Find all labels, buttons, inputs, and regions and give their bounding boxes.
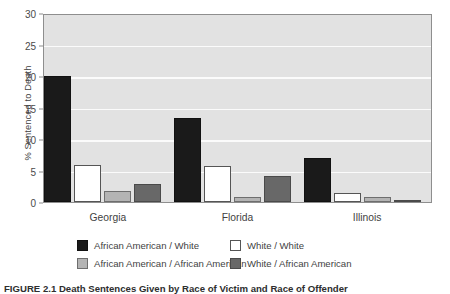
y-axis-tick-label: 20: [25, 72, 36, 83]
figure-caption: FIGURE 2.1 Death Sentences Given by Race…: [4, 283, 446, 294]
gridline: [44, 77, 431, 78]
legend-swatch-icon: [230, 240, 241, 251]
legend-swatch-icon: [230, 258, 241, 269]
gridline: [44, 46, 431, 47]
y-axis-tick-label: 0: [30, 198, 36, 209]
figure-chart: % Sentenced to Death 051015202530 Georgi…: [0, 0, 450, 294]
bar: [104, 191, 131, 202]
gridlines: [44, 15, 431, 202]
y-axis-tick-label: 15: [25, 103, 36, 114]
legend-swatch-icon: [77, 258, 88, 269]
x-axis-tick-label: Florida: [222, 212, 253, 223]
bar: [134, 184, 161, 202]
bar: [364, 197, 391, 202]
legend-item: African American / White: [77, 240, 199, 251]
gridline: [44, 109, 431, 110]
y-axis-ticks: 051015202530: [0, 14, 43, 203]
legend-swatch-icon: [77, 240, 88, 251]
bar: [334, 193, 361, 202]
legend-label: African American / African American: [94, 258, 247, 269]
x-axis-tick-labels: GeorgiaFloridaIllinois: [43, 206, 432, 226]
y-axis-tick-label: 10: [25, 135, 36, 146]
y-axis-tick-label: 5: [30, 166, 36, 177]
x-axis-tick-label: Illinois: [353, 212, 382, 223]
gridline: [44, 140, 431, 141]
chart-legend: African American / WhiteWhite / WhiteAfr…: [55, 238, 425, 272]
legend-label: White / African American: [247, 258, 352, 269]
bar: [204, 166, 231, 202]
y-axis-tick-label: 25: [25, 40, 36, 51]
bar: [304, 158, 331, 202]
plot-area: [43, 14, 432, 203]
bar: [234, 197, 261, 202]
legend-label: White / White: [247, 240, 304, 251]
bar: [264, 176, 291, 202]
y-axis-tick-label: 30: [25, 9, 36, 20]
bar: [394, 200, 421, 202]
x-axis-tick-label: Georgia: [90, 212, 127, 223]
legend-item: White / White: [230, 240, 304, 251]
gridline: [44, 172, 431, 173]
bar: [174, 118, 201, 202]
bar: [74, 165, 101, 202]
bar: [44, 76, 71, 202]
legend-item: White / African American: [230, 258, 352, 269]
legend-label: African American / White: [94, 240, 199, 251]
legend-item: African American / African American: [77, 258, 247, 269]
